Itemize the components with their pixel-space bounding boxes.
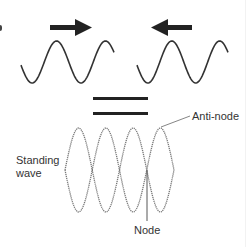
anti-node-leader-line xyxy=(161,116,190,127)
standing-wave-envelope-lower xyxy=(65,128,174,212)
anti-node-label: Anti-node xyxy=(192,110,239,122)
standing-wave-label-line1: Standing xyxy=(16,154,59,166)
travelling-wave-left xyxy=(137,41,228,83)
standing-wave-label-line2: wave xyxy=(15,167,42,179)
node-label: Node xyxy=(134,224,160,236)
arrow-left-icon xyxy=(151,19,192,36)
equals-sign xyxy=(93,97,148,115)
travelling-wave-right xyxy=(21,41,114,83)
standing-wave-diagram: Standing wave Anti-node Node xyxy=(0,0,251,247)
arrow-right-icon xyxy=(50,19,92,36)
